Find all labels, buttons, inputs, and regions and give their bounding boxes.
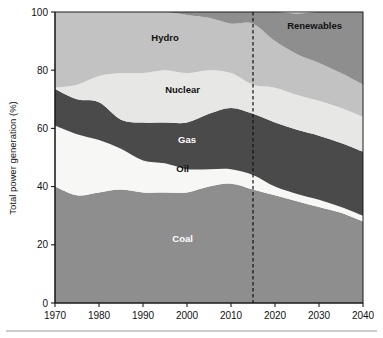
y-tick-label: 20 bbox=[37, 239, 49, 250]
y-tick-group: 020406080100 bbox=[31, 7, 55, 309]
y-axis-title: Total power generation (%) bbox=[7, 101, 18, 215]
series-label-coal: Coal bbox=[172, 233, 193, 244]
x-tick-label: 1970 bbox=[44, 310, 67, 321]
y-tick-label: 40 bbox=[37, 181, 49, 192]
y-tick-label: 80 bbox=[37, 65, 49, 76]
series-label-nuclear: Nuclear bbox=[165, 84, 200, 95]
stacked-area-chart: 020406080100 197019801990200020102020203… bbox=[0, 0, 383, 338]
y-tick-label: 0 bbox=[42, 298, 48, 309]
x-tick-label: 2020 bbox=[264, 310, 287, 321]
x-tick-label: 2010 bbox=[220, 310, 243, 321]
x-tick-label: 2000 bbox=[176, 310, 199, 321]
y-tick-label: 60 bbox=[37, 123, 49, 134]
x-tick-group: 19701980199020002010202020302040 bbox=[44, 303, 375, 321]
x-tick-label: 1980 bbox=[88, 310, 111, 321]
series-label-renewables: Renewables bbox=[287, 20, 342, 31]
chart-figure: 020406080100 197019801990200020102020203… bbox=[0, 0, 383, 338]
x-tick-label: 2030 bbox=[308, 310, 331, 321]
x-tick-label: 1990 bbox=[132, 310, 155, 321]
series-label-hydro: Hydro bbox=[151, 32, 179, 43]
x-tick-label: 2040 bbox=[352, 310, 375, 321]
y-tick-label: 100 bbox=[31, 7, 48, 18]
series-label-oil: Oil bbox=[176, 163, 189, 174]
series-label-gas: Gas bbox=[178, 134, 196, 145]
area-band-group bbox=[55, 12, 363, 303]
